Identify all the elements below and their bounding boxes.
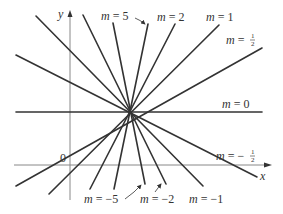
pointer-arrow-mneg5-icon <box>125 185 141 199</box>
svg-text:2: 2 <box>251 156 255 164</box>
line-m-1 <box>49 25 219 194</box>
label-m0: m = 0 <box>222 97 249 111</box>
x-axis-arrow-icon <box>264 163 272 168</box>
label-m2: m = 2 <box>157 10 184 24</box>
slope-diagram: y x 0 m = 5 m = 2 m = 1 m = <box>0 0 283 214</box>
svg-text:m =: m = <box>226 33 245 47</box>
svg-text:m = −: m = − <box>216 149 244 163</box>
label-m5: m = 5 <box>101 9 128 23</box>
y-axis-label: y <box>57 7 64 21</box>
slope-labels: m = 5 m = 2 m = 1 m = 1 2 m = 0 m = − 1 … <box>84 9 255 206</box>
svg-text:2: 2 <box>251 40 255 48</box>
label-m1: m = 1 <box>206 10 233 24</box>
label-m-neg-1: m = −1 <box>189 192 223 206</box>
label-m-neg-2: m = −2 <box>140 192 174 206</box>
pointer-arrow-mneg2-icon <box>155 184 161 192</box>
label-m-half: m = 1 2 <box>226 32 255 48</box>
label-m-neg-5: m = −5 <box>84 192 118 206</box>
line-m-2 <box>90 24 175 189</box>
svg-text:1: 1 <box>251 148 255 156</box>
line-m-neg-2 <box>83 15 166 184</box>
x-axis-label: x <box>259 169 266 183</box>
label-m-neg-half: m = − 1 2 <box>216 148 255 164</box>
svg-text:1: 1 <box>251 32 255 40</box>
pointer-arrow-m5-icon <box>135 18 145 24</box>
y-axis-arrow-icon <box>68 10 73 17</box>
